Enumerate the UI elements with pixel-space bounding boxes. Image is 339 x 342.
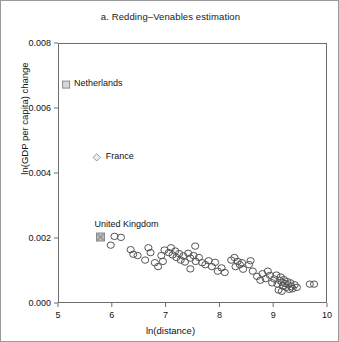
x-axis-tick-label: 8 xyxy=(207,310,231,320)
data-point-label-united-kingdom: United Kingdom xyxy=(95,219,159,229)
y-axis-tick-label: 0.008 xyxy=(7,38,51,48)
x-axis-tick-label: 6 xyxy=(100,310,124,320)
data-point-label-france: France xyxy=(106,151,134,161)
y-axis-tick-label: 0.002 xyxy=(7,233,51,243)
x-axis-tick-label: 5 xyxy=(46,310,70,320)
x-axis-tick-label: 7 xyxy=(154,310,178,320)
data-point-label-netherlands: Netherlands xyxy=(74,78,123,88)
chart-title: a. Redding–Venables estimation xyxy=(1,11,339,22)
chart-figure: a. Redding–Venables estimation ln(GDP pe… xyxy=(0,0,339,342)
x-axis-tick-label: 10 xyxy=(315,310,339,320)
x-axis-label: ln(distance) xyxy=(1,325,339,336)
y-axis-tick-label: 0.000 xyxy=(7,298,51,308)
x-axis-tick-label: 9 xyxy=(261,310,285,320)
y-axis-tick-label: 0.006 xyxy=(7,103,51,113)
y-axis-tick-label: 0.004 xyxy=(7,168,51,178)
